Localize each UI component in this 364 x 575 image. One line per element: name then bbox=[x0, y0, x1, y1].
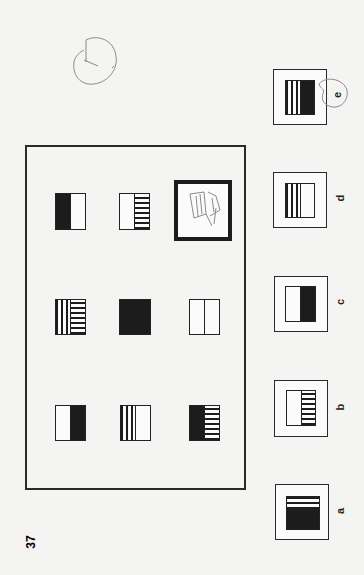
option-c-figure bbox=[285, 286, 316, 322]
matrix-cell-r2c1 bbox=[55, 299, 86, 335]
option-e-label: e bbox=[331, 88, 343, 102]
option-d-label: d bbox=[334, 191, 346, 205]
option-c-label: c bbox=[334, 295, 346, 309]
matrix-answer-slot[interactable] bbox=[174, 180, 232, 241]
option-a-label: a bbox=[334, 504, 346, 518]
matrix-cell-r1c1 bbox=[55, 193, 86, 230]
pencil-scribble-icon bbox=[186, 188, 224, 232]
handwritten-mark-icon bbox=[68, 32, 124, 90]
option-a-figure bbox=[286, 496, 320, 530]
matrix-cell-r2c3 bbox=[189, 299, 220, 335]
matrix-cell-r3c1 bbox=[55, 405, 86, 441]
matrix-cell-r3c2 bbox=[120, 405, 151, 441]
option-b[interactable] bbox=[274, 380, 328, 437]
option-d-figure bbox=[285, 183, 315, 218]
option-c[interactable] bbox=[274, 276, 328, 332]
question-number: 37 bbox=[24, 535, 38, 548]
matrix-cell-r1c2 bbox=[119, 193, 150, 230]
matrix-cell-r2c2 bbox=[119, 299, 151, 335]
option-b-label: b bbox=[334, 400, 346, 414]
option-b-figure bbox=[286, 390, 316, 426]
option-e-figure bbox=[285, 80, 315, 115]
matrix-cell-r3c3 bbox=[189, 405, 220, 441]
option-d[interactable] bbox=[273, 172, 327, 228]
option-a[interactable] bbox=[275, 484, 329, 540]
